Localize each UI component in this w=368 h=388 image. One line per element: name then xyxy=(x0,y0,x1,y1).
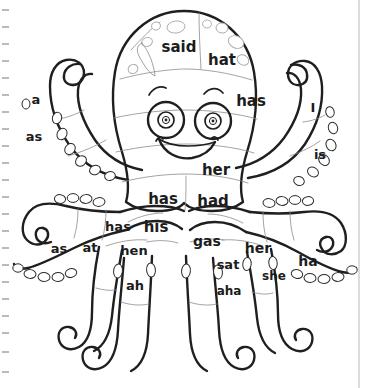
face xyxy=(148,87,231,158)
word-is: is xyxy=(314,147,326,162)
word-as-2: as xyxy=(26,129,43,144)
word-hat: hat xyxy=(208,51,236,69)
arm-outer-left xyxy=(13,194,126,282)
word-has-1: has xyxy=(236,92,266,110)
word-has-3: has xyxy=(105,219,131,234)
word-aha: aha xyxy=(217,284,242,298)
word-her-1: her xyxy=(202,161,231,179)
word-ha: ha xyxy=(298,253,317,269)
word-his: his xyxy=(144,218,169,236)
word-at: at xyxy=(83,240,98,255)
word-had: had xyxy=(197,192,229,210)
word-her-2: her xyxy=(245,240,271,256)
word-has-2: has xyxy=(148,190,178,208)
word-she: she xyxy=(262,269,286,283)
word-gas: gas xyxy=(193,233,221,249)
word-as-1: as xyxy=(51,241,68,256)
word-hen: hen xyxy=(120,243,147,258)
word-a: a xyxy=(32,92,41,107)
word-said: said xyxy=(162,38,197,56)
leg-left-outer xyxy=(59,247,122,351)
octopus-line-art: said hat has her has had his has gas her… xyxy=(0,0,368,388)
coloring-page: said hat has her has had his has gas her… xyxy=(0,0,368,388)
word-sat: sat xyxy=(217,257,240,272)
word-I: I xyxy=(311,100,316,115)
leg-right-inner xyxy=(181,256,254,371)
word-ah: ah xyxy=(126,278,144,293)
left-margin-ticks xyxy=(2,10,9,372)
